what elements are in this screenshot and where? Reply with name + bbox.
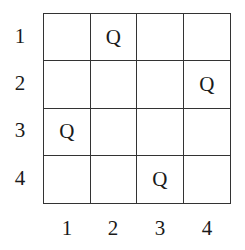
cell-1-3 (137, 14, 184, 61)
cell-1-4 (184, 14, 231, 61)
cell-1-2: Q (91, 14, 138, 61)
row-label-4: 4 (12, 166, 28, 191)
col-label-1: 1 (57, 216, 77, 241)
cell-3-3 (137, 109, 184, 156)
cell-2-3 (137, 61, 184, 108)
cell-2-4: Q (184, 61, 231, 108)
cell-3-4 (184, 109, 231, 156)
cell-2-2 (91, 61, 138, 108)
cell-4-3: Q (137, 156, 184, 203)
col-label-3: 3 (150, 216, 170, 241)
cell-3-2 (91, 109, 138, 156)
cell-2-1 (44, 61, 91, 108)
col-label-4: 4 (197, 216, 217, 241)
row-label-2: 2 (12, 71, 28, 96)
cell-4-2 (91, 156, 138, 203)
cell-4-1 (44, 156, 91, 203)
cell-1-1 (44, 14, 91, 61)
row-label-3: 3 (12, 118, 28, 143)
cell-3-1: Q (44, 109, 91, 156)
chess-board: Q Q Q Q (43, 13, 231, 204)
cell-4-4 (184, 156, 231, 203)
row-label-1: 1 (12, 24, 28, 49)
col-label-2: 2 (103, 216, 123, 241)
